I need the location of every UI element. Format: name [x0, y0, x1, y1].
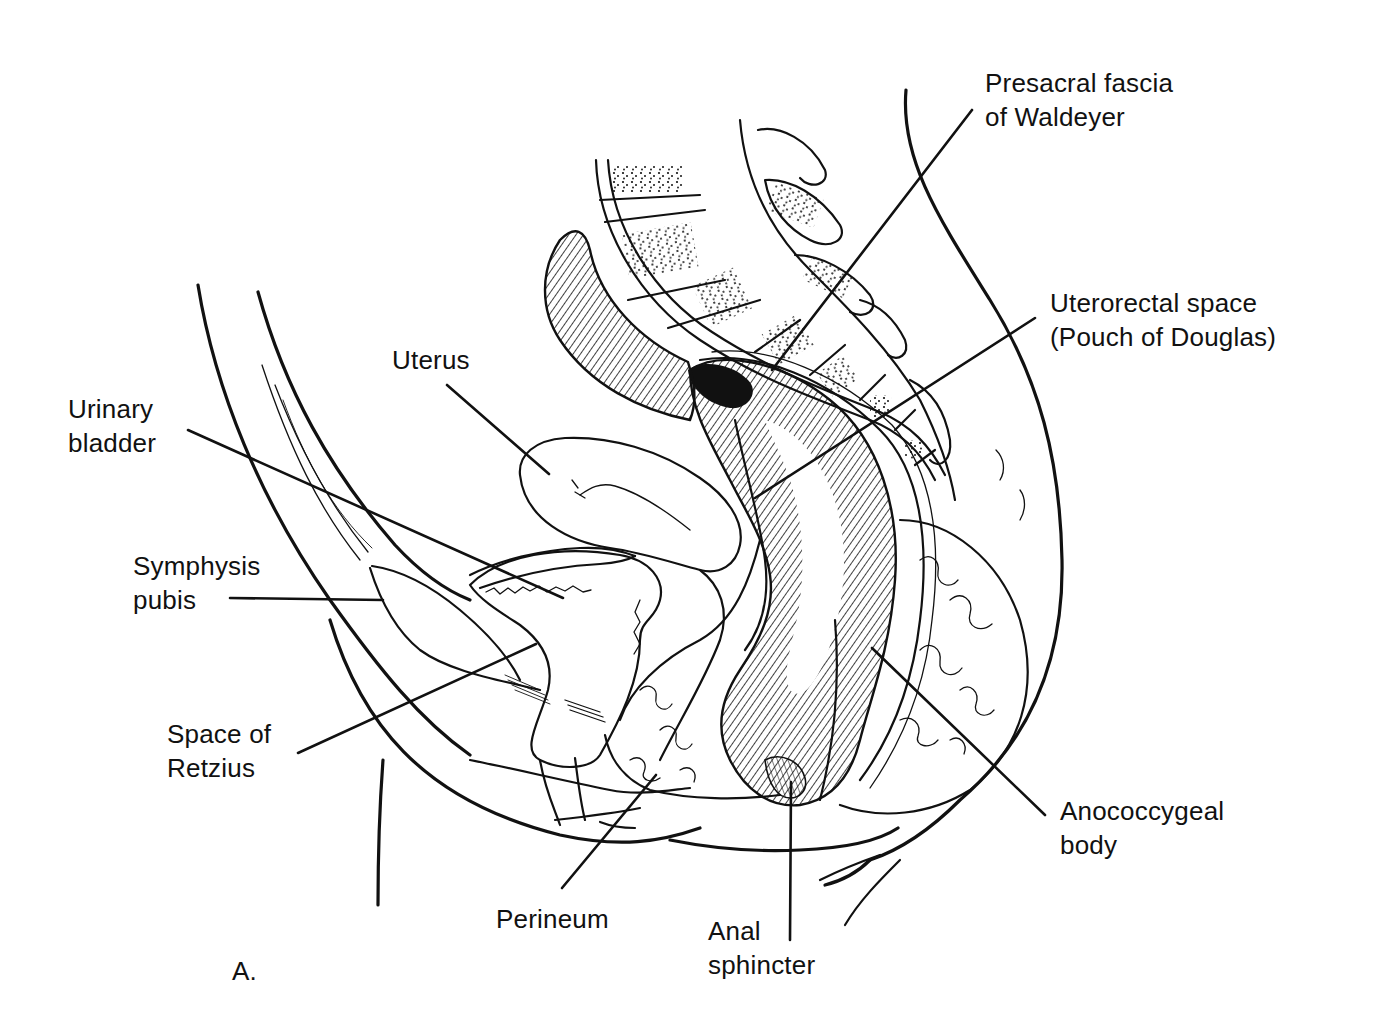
label-urinary-bladder: Urinary bladder	[68, 392, 156, 460]
panel-label: A.	[232, 954, 257, 988]
rectum-shape	[605, 351, 936, 805]
leader-uterus	[447, 385, 549, 474]
leader-perineum	[562, 775, 656, 888]
label-anal-sphincter: Anal sphincter	[708, 914, 815, 982]
leader-space-of-retzius	[298, 644, 536, 753]
label-symphysis-pubis: Symphysis pubis	[133, 549, 261, 617]
label-uterorectal-space: Uterorectal space (Pouch of Douglas)	[1050, 286, 1276, 354]
leader-presacral-fascia	[772, 110, 972, 370]
leader-lines	[188, 110, 1045, 940]
label-space-of-retzius: Space of Retzius	[167, 717, 271, 785]
label-perineum: Perineum	[496, 902, 609, 936]
label-presacral-fascia: Presacral fascia of Waldeyer	[985, 66, 1173, 134]
label-anococcygeal-body: Anococcygeal body	[1060, 794, 1224, 862]
urinary-bladder-shape	[470, 551, 690, 825]
anatomy-illustration	[0, 0, 1397, 1036]
uterus-shape	[470, 438, 741, 760]
label-uterus: Uterus	[392, 343, 470, 377]
